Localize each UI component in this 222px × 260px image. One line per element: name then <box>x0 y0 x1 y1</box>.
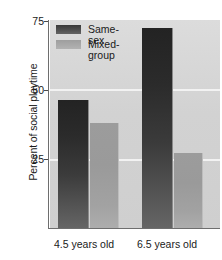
bar-same-sex-6-5 <box>142 28 173 228</box>
bar-mixed-group-6-5 <box>174 153 203 228</box>
y-tick-label-50: 50 <box>18 85 44 96</box>
x-axis-line <box>48 228 220 229</box>
y-axis-title: Percent of social playtime <box>27 22 39 222</box>
x-tick-label-4-5-years: 4.5 years old <box>44 238 124 250</box>
legend-label-mixed-group: Mixed- group <box>88 39 120 61</box>
x-tick-label-6-5-years: 6.5 years old <box>127 238 207 250</box>
bar-mixed-group-4-5 <box>90 123 119 228</box>
legend-swatch-same-sex-icon <box>56 25 81 34</box>
legend-swatch-mixed-group-icon <box>56 40 81 49</box>
y-tick-label-75: 75 <box>18 16 44 27</box>
y-tick-label-25: 25 <box>18 154 44 165</box>
bar-same-sex-4-5 <box>58 100 89 228</box>
legend-item-mixed-group: Mixed- group <box>56 39 120 61</box>
y-axis-line <box>48 20 49 229</box>
gridline-50 <box>50 89 220 91</box>
bar-chart: Percent of social playtime 75 50 25 Same… <box>0 0 222 260</box>
